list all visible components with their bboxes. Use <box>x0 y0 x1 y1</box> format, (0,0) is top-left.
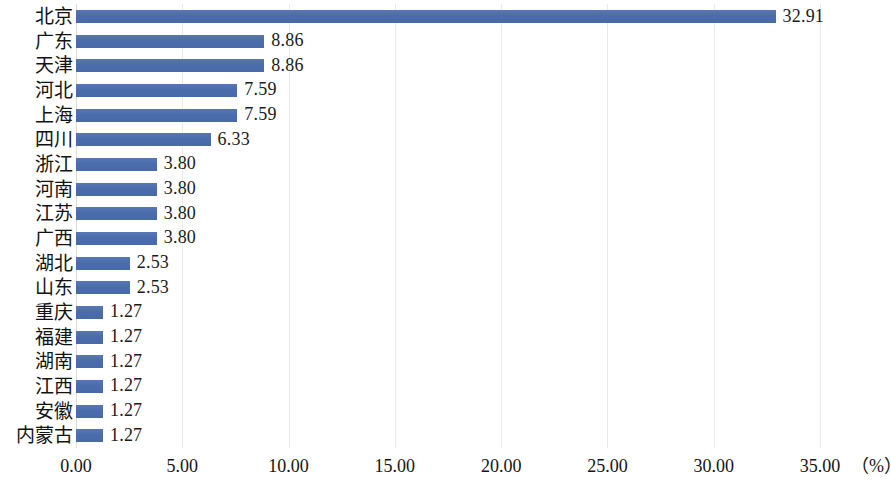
bar <box>76 355 103 368</box>
bar-row: 1.27 <box>76 349 820 374</box>
category-label: 福建 <box>35 325 73 350</box>
bar <box>76 10 776 23</box>
category-label: 浙江 <box>35 152 73 177</box>
bar-row: 1.27 <box>76 399 820 424</box>
category-label: 上海 <box>35 103 73 128</box>
bar-value-label: 3.80 <box>164 176 196 201</box>
bar-row: 6.33 <box>76 127 820 152</box>
bar-row: 1.27 <box>76 325 820 350</box>
bar-row: 32.91 <box>76 4 820 29</box>
bar-row: 8.86 <box>76 29 820 54</box>
bar-value-label: 2.53 <box>137 250 169 275</box>
bar-value-label: 1.27 <box>110 423 142 448</box>
category-label: 湖南 <box>35 349 73 374</box>
bar <box>76 306 103 319</box>
category-label: 湖北 <box>35 251 73 276</box>
x-tick-label: 10.00 <box>268 452 309 481</box>
bar-row: 3.80 <box>76 226 820 251</box>
category-label: 河南 <box>35 177 73 202</box>
bar <box>76 133 211 146</box>
bar <box>76 429 103 442</box>
bar-row: 7.59 <box>76 78 820 103</box>
bar <box>76 183 157 196</box>
x-tick-label: 0.00 <box>60 452 92 481</box>
bar-chart: 北京广东天津河北上海四川浙江河南江苏广西湖北山东重庆福建湖南江西安徽内蒙古 32… <box>0 0 891 481</box>
plot-area: 32.918.868.867.597.596.333.803.803.803.8… <box>76 4 820 448</box>
category-label: 河北 <box>35 78 73 103</box>
category-label: 广西 <box>35 226 73 251</box>
bar-value-label: 8.86 <box>271 28 303 53</box>
bar <box>76 281 130 294</box>
x-tick-label: 20.00 <box>481 452 522 481</box>
bar-row: 3.80 <box>76 152 820 177</box>
category-label: 广东 <box>35 29 73 54</box>
category-label: 山东 <box>35 275 73 300</box>
bar-value-label: 1.27 <box>110 349 142 374</box>
category-label: 安徽 <box>35 399 73 424</box>
x-tick-label: 30.00 <box>693 452 734 481</box>
bar-value-label: 1.27 <box>110 324 142 349</box>
bar-value-label: 3.80 <box>164 201 196 226</box>
bar-value-label: 1.27 <box>110 373 142 398</box>
x-tick-label: 35.00 <box>800 452 841 481</box>
bar <box>76 59 264 72</box>
bar <box>76 405 103 418</box>
bar <box>76 84 237 97</box>
bar-value-label: 8.86 <box>271 53 303 78</box>
category-label: 内蒙古 <box>16 423 73 448</box>
bar-value-label: 7.59 <box>244 77 276 102</box>
bar-value-label: 32.91 <box>783 4 825 29</box>
bar <box>76 232 157 245</box>
bar <box>76 257 130 270</box>
x-tick-label: 15.00 <box>375 452 416 481</box>
bar-row: 2.53 <box>76 275 820 300</box>
x-tick-label: 5.00 <box>167 452 199 481</box>
bar <box>76 331 103 344</box>
bar-value-label: 2.53 <box>137 275 169 300</box>
gridline <box>820 4 821 448</box>
bar-row: 1.27 <box>76 374 820 399</box>
bar <box>76 35 264 48</box>
x-axis-unit-label: （%） <box>851 452 891 481</box>
category-label: 天津 <box>35 53 73 78</box>
bar-row: 7.59 <box>76 103 820 128</box>
category-label: 江苏 <box>35 201 73 226</box>
category-label: 北京 <box>35 4 73 29</box>
bar <box>76 207 157 220</box>
x-tick-label: 25.00 <box>587 452 628 481</box>
bar-value-label: 1.27 <box>110 299 142 324</box>
bar <box>76 380 103 393</box>
bar-row: 2.53 <box>76 251 820 276</box>
bar-row: 1.27 <box>76 423 820 448</box>
bar-value-label: 3.80 <box>164 151 196 176</box>
bar-value-label: 1.27 <box>110 398 142 423</box>
bar-row: 1.27 <box>76 300 820 325</box>
category-label: 江西 <box>35 374 73 399</box>
bar-value-label: 7.59 <box>244 102 276 127</box>
category-axis-labels: 北京广东天津河北上海四川浙江河南江苏广西湖北山东重庆福建湖南江西安徽内蒙古 <box>0 4 76 448</box>
bar-row: 8.86 <box>76 53 820 78</box>
bar-value-label: 3.80 <box>164 225 196 250</box>
bar-value-label: 6.33 <box>218 127 250 152</box>
bar-row: 3.80 <box>76 201 820 226</box>
x-axis-tick-labels: 0.005.0010.0015.0020.0025.0030.0035.00（%… <box>0 452 891 481</box>
bar <box>76 109 237 122</box>
bar-rows: 32.918.868.867.597.596.333.803.803.803.8… <box>76 4 820 448</box>
bar <box>76 158 157 171</box>
category-label: 重庆 <box>35 300 73 325</box>
category-label: 四川 <box>35 127 73 152</box>
bar-row: 3.80 <box>76 177 820 202</box>
